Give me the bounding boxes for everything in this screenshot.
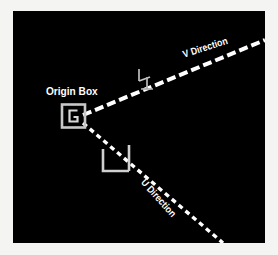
origin-box-shape xyxy=(62,105,85,128)
plot-canvas: Origin Box V Direction U Direction xyxy=(13,11,265,243)
v-direction-line xyxy=(83,40,265,115)
figure-root: Origin Box V Direction U Direction xyxy=(0,0,278,255)
origin-box-label: Origin Box xyxy=(46,85,98,97)
